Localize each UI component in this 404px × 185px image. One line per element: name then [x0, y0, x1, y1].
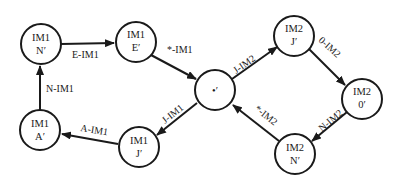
edge-label: J-IM2 [231, 53, 257, 76]
node-label-line1: IM1 [31, 118, 49, 129]
node-label-line2: J′ [291, 36, 297, 47]
edge-label: E-IM1 [72, 49, 99, 60]
edge-e-im1: E-IM1 [61, 43, 114, 60]
node-im2-j: IM2 J′ [274, 16, 314, 56]
node-im1-j: IM1 J′ [119, 127, 159, 167]
node-label-line1: IM1 [130, 135, 148, 146]
node-label-line2: E′ [132, 42, 141, 53]
node-label-line1: IM2 [285, 23, 303, 34]
node-label-line2: N′ [290, 155, 300, 166]
node-im1-a: IM1 A′ [20, 110, 60, 150]
edge-label: *-IM1 [167, 44, 193, 55]
edge-star-im1: *-IM1 [151, 44, 196, 79]
edge-j-im1: J-IM1 [157, 102, 197, 135]
edge-label: N-IM2 [316, 107, 344, 133]
node-label-line1: IM2 [286, 142, 304, 153]
edge-label: A-IM1 [80, 122, 109, 137]
node-im1-e: IM1 E′ [116, 22, 156, 62]
node-im1-n: IM1 N′ [21, 24, 61, 64]
node-label-line2: •′ [212, 85, 218, 96]
node-label-line2: 0′ [358, 99, 366, 110]
edge-j-im2: J-IM2 [231, 47, 277, 79]
edge-label: N-IM1 [46, 83, 74, 94]
edge-star-im2: *-IM2 [233, 103, 280, 141]
state-diagram: E-IM1 *-IM1 J-IM2 0-IM2 N-IM2 *-IM2 J-IM… [0, 0, 404, 185]
node-label-line2: N′ [36, 45, 46, 56]
edge-label: 0-IM2 [317, 34, 343, 59]
node-im2-0: IM2 0′ [342, 79, 382, 119]
node-star: •′ [195, 70, 235, 110]
node-label-line2: J′ [136, 148, 142, 159]
node-label-line1: IM1 [32, 32, 50, 43]
edge-a-im1: A-IM1 [62, 122, 118, 144]
node-label-line1: IM1 [127, 29, 145, 40]
edge-n-im2: N-IM2 [312, 107, 347, 141]
node-label-line1: IM2 [353, 86, 371, 97]
node-im2-n: IM2 N′ [275, 134, 315, 174]
node-label-line2: A′ [35, 131, 45, 142]
edge-0-im2: 0-IM2 [309, 34, 345, 85]
edge-n-im1: N-IM1 [40, 66, 74, 110]
